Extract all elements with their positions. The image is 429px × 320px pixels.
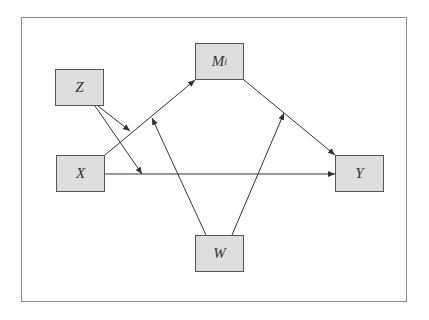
node-m-label: M bbox=[212, 53, 225, 70]
node-z-label: Z bbox=[75, 79, 83, 96]
edge-m-to-y bbox=[244, 80, 335, 155]
node-w: W bbox=[195, 235, 244, 272]
node-x: X bbox=[56, 155, 105, 192]
edge-x-to-m bbox=[105, 80, 195, 155]
node-z: Z bbox=[55, 69, 104, 106]
node-y: Y bbox=[335, 155, 384, 192]
node-y-label: Y bbox=[355, 165, 363, 182]
node-m: Mi bbox=[195, 43, 244, 80]
edge-w-to-xm bbox=[152, 118, 206, 235]
node-x-label: X bbox=[76, 165, 85, 182]
edge-z-to-xm bbox=[98, 106, 130, 131]
node-m-subscript: i bbox=[224, 56, 227, 67]
node-w-label: W bbox=[213, 245, 226, 262]
